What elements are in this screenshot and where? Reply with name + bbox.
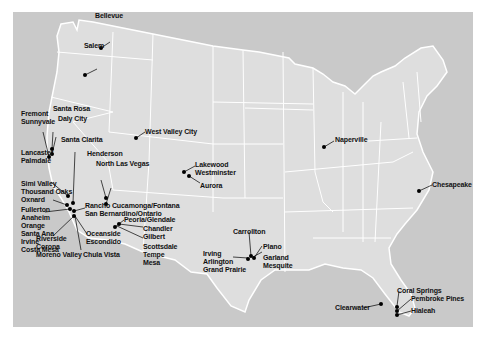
label-sunnyvale: Sunnyvale [21, 118, 55, 126]
label-irving: Irving [203, 250, 221, 258]
label-bellevue: Bellevue [95, 12, 123, 20]
marker-lakewood[interactable] [182, 170, 186, 174]
label-tempe: Tempe [143, 251, 165, 259]
marker-henderson[interactable] [104, 196, 108, 200]
label-simi-valley: Simi Valley [21, 180, 56, 188]
marker-salem[interactable] [83, 73, 87, 77]
label-pembroke-pines: Pembroke Pines [411, 295, 464, 303]
label-grand-prairie: Grand Prairie [203, 266, 246, 274]
label-carrollton: Carrollton [233, 228, 265, 236]
label-daly-city: Daly City [58, 115, 87, 123]
label-scottsdale: Scottsdale [143, 243, 177, 251]
marker-garland[interactable] [252, 256, 256, 260]
label-naperville: Naperville [335, 136, 367, 144]
label-gilbert: Gilbert [143, 233, 165, 241]
marker-peoria[interactable] [113, 225, 117, 229]
label-plano: Plano [263, 243, 282, 251]
marker-hialeah[interactable] [395, 313, 399, 317]
label-coral-springs: Coral Springs [397, 287, 442, 295]
label-oceanside: Oceanside [86, 230, 121, 238]
marker-santa-clarita[interactable] [71, 201, 75, 205]
label-santa-clarita: Santa Clarita [61, 136, 103, 144]
label-rancho: Rancho Cucamonga/Fontana [85, 202, 179, 210]
marker-clearwater[interactable] [379, 302, 383, 306]
marker-chandler[interactable] [117, 222, 121, 226]
label-henderson: Henderson [87, 150, 123, 158]
label-santa-rosa: Santa Rosa [53, 105, 90, 113]
label-arlington: Arlington [203, 258, 233, 266]
us-land-shape [13, 12, 473, 327]
label-corona: Corona [36, 243, 60, 251]
label-anaheim: Anaheim [21, 214, 50, 222]
label-salem: Salem [84, 42, 104, 50]
marker-aurora[interactable] [187, 174, 191, 178]
label-north-las-vegas: North Las Vegas [96, 160, 149, 168]
label-fremont: Fremont [21, 110, 48, 118]
marker-riverside[interactable] [72, 214, 76, 218]
label-orange: Orange [21, 222, 45, 230]
label-hialeah: Hialeah [411, 307, 435, 315]
label-west-valley-city: West Valley City [145, 128, 197, 136]
label-moreno-valley: Moreno Valley [36, 251, 82, 259]
label-fullerton: Fullerton [21, 206, 50, 214]
us-cities-map: Bellevue Salem Santa Rosa Daly City Frem… [13, 12, 473, 327]
label-westminster: Westminster [195, 169, 236, 177]
label-escondido: Escondido [86, 238, 121, 246]
label-chula-vista: Chula Vista [83, 251, 120, 259]
label-lancaster: Lancaster [21, 149, 53, 157]
marker-naperville[interactable] [322, 145, 326, 149]
label-clearwater: Clearwater [335, 304, 370, 312]
label-mesquite: Mesquite [263, 262, 293, 270]
label-lakewood: Lakewood [195, 161, 228, 169]
marker-chesapeake[interactable] [417, 189, 421, 193]
label-oxnard: Oxnard [21, 196, 45, 204]
label-chandler: Chandler [143, 225, 173, 233]
label-peoria: Peoria/Glendale [124, 216, 175, 224]
label-garland: Garland [263, 254, 289, 262]
label-aurora: Aurora [200, 182, 222, 190]
label-mesa: Mesa [143, 259, 160, 267]
label-chesapeake: Chesapeake [432, 181, 472, 189]
marker-rancho[interactable] [72, 209, 76, 213]
label-thousand-oaks: Thousand Oaks [21, 188, 72, 196]
label-riverside: Riverside [36, 235, 67, 243]
marker-west-valley-city[interactable] [134, 136, 138, 140]
label-palmdale: Palmdale [21, 157, 51, 165]
